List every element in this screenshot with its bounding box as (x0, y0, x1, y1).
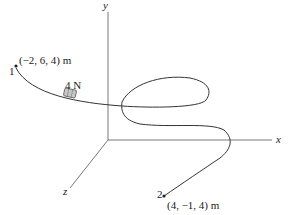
point-1-label: 1 (9, 66, 15, 77)
point-1-coords: (−2, 6, 4) m (19, 55, 71, 66)
rod-path (16, 68, 230, 196)
z-axis-label: z (63, 186, 67, 197)
point-2-label: 2 (157, 189, 163, 200)
point-2-marker (162, 194, 165, 197)
point-2-coords: (4, −1, 4) m (167, 200, 219, 211)
diagram-canvas (0, 0, 290, 215)
z-axis (70, 140, 108, 188)
y-axis-label: y (103, 0, 108, 11)
force-label: 4 N (65, 80, 81, 91)
x-axis-label: x (276, 134, 281, 145)
point-1-marker (14, 64, 17, 67)
